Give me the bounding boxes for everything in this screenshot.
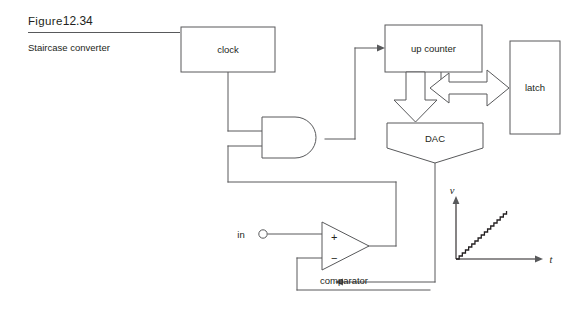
arrowhead-to-up-counter [377, 45, 385, 52]
block-arrow-counter-to-dac [394, 72, 437, 122]
in-terminal-circle[interactable] [259, 230, 267, 238]
terminal-in[interactable]: in [237, 229, 267, 240]
graph-y-axis-arrowhead [453, 196, 460, 204]
comparator-shape [322, 222, 369, 270]
dac-label: DAC [425, 133, 445, 144]
staircase-graph: v t [450, 185, 554, 265]
comparator-plus-label: + [331, 231, 337, 243]
block-comparator[interactable]: + − comparator [320, 222, 369, 286]
block-diagram: clock up counter latch DAC + − comparato… [0, 0, 588, 314]
figure-canvas: Figure12.34 Staircase converter [0, 0, 588, 314]
graph-x-axis-arrowhead [535, 256, 543, 263]
block-latch[interactable]: latch [510, 41, 560, 134]
in-terminal-label: in [237, 229, 244, 240]
comparator-minus-label: − [331, 252, 337, 264]
graph-x-axis-label: t [550, 254, 554, 265]
comparator-label: comparator [320, 275, 368, 286]
block-and-gate[interactable] [262, 117, 316, 158]
and-gate-shape [262, 117, 316, 158]
latch-label: latch [525, 82, 545, 93]
clock-label: clock [217, 44, 239, 55]
up-counter-label: up counter [411, 43, 456, 54]
block-arrow-counter-to-latch [430, 70, 509, 106]
graph-y-axis-label: v [450, 185, 455, 196]
block-dac[interactable]: DAC [387, 123, 483, 163]
staircase-waveform [456, 211, 507, 259]
block-clock[interactable]: clock [181, 27, 275, 72]
block-up-counter[interactable]: up counter [385, 25, 482, 72]
